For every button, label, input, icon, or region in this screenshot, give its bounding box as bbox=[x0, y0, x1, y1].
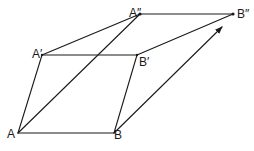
point-B2-dot bbox=[231, 12, 234, 15]
label-A1: A′ bbox=[32, 47, 43, 61]
label-B1: B′ bbox=[139, 55, 150, 69]
segment-A1-A2 bbox=[42, 14, 140, 55]
label-A: A bbox=[7, 127, 15, 141]
parallelogram-diagram: A B A′ B′ A″ B″ bbox=[0, 0, 254, 151]
label-B2: B″ bbox=[237, 7, 250, 21]
segment-B1-B2 bbox=[137, 14, 233, 55]
label-A2: A″ bbox=[129, 6, 142, 20]
label-B: B bbox=[114, 128, 122, 142]
point-B1-dot bbox=[136, 54, 138, 56]
